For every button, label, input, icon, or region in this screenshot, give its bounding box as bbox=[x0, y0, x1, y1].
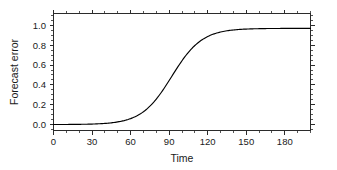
y-tick-label: 0.4 bbox=[33, 79, 46, 90]
x-tick-label: 0 bbox=[51, 136, 56, 147]
x-tick-label: 180 bbox=[277, 136, 293, 147]
x-tick-label: 150 bbox=[238, 136, 254, 147]
y-tick-label: 0.0 bbox=[33, 119, 46, 130]
y-tick-label: 0.6 bbox=[33, 59, 46, 70]
x-tick-label: 30 bbox=[87, 136, 98, 147]
x-tick-label: 60 bbox=[125, 136, 136, 147]
y-tick-label: 0.8 bbox=[33, 40, 46, 51]
chart-figure: 0306090120150180 0.00.20.40.60.81.0 Time… bbox=[0, 0, 337, 170]
y-tick-label: 0.2 bbox=[33, 99, 46, 110]
x-axis-title: Time bbox=[171, 152, 194, 164]
x-tick-label: 90 bbox=[164, 136, 175, 147]
y-axis-title: Forecast error bbox=[8, 39, 20, 105]
plot-svg: 0306090120150180 0.00.20.40.60.81.0 Time… bbox=[0, 0, 337, 170]
x-tick-label: 120 bbox=[200, 136, 216, 147]
y-tick-label: 1.0 bbox=[33, 20, 46, 31]
